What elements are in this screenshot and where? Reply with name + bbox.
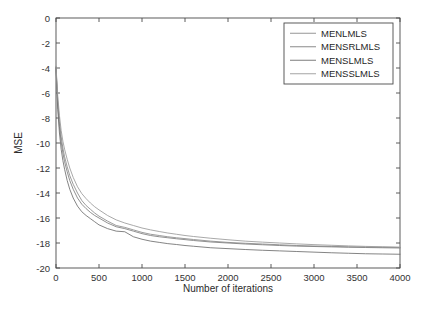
x-tick-label: 2500 xyxy=(260,272,281,283)
legend-label-menlmls: MENLMLS xyxy=(321,28,367,39)
chart-legend: MENLMLSMENSRLMLSMENSLMLSMENSSLMLS xyxy=(284,23,393,84)
y-tick-label: -14 xyxy=(36,188,50,199)
y-tick-label: 0 xyxy=(45,13,50,24)
x-tick-label: 1500 xyxy=(174,272,195,283)
x-tick-labels: 05001000150020002500300035004000 xyxy=(53,272,410,283)
x-tick-label: 3000 xyxy=(303,272,324,283)
x-tick-label: 3500 xyxy=(346,272,367,283)
plot-area: 05001000150020002500300035004000 0-2-4-6… xyxy=(0,0,421,316)
series-line-menslmls xyxy=(56,68,400,254)
x-tick-label: 2000 xyxy=(217,272,238,283)
data-series-group xyxy=(56,66,400,254)
x-tick-label: 500 xyxy=(91,272,107,283)
y-tick-label: -8 xyxy=(42,113,50,124)
legend-label-mensrlmls: MENSRLMLS xyxy=(321,41,380,52)
y-tick-label: -6 xyxy=(42,88,50,99)
x-axis-title: Number of iterations xyxy=(183,283,273,294)
y-axis-title: MSE xyxy=(13,132,24,154)
y-tick-label: -10 xyxy=(36,138,50,149)
series-line-menlmls xyxy=(56,67,400,248)
legend-label-menslmls: MENSLMLS xyxy=(321,55,373,66)
y-tick-label: -18 xyxy=(36,238,50,249)
y-tick-label: -12 xyxy=(36,163,50,174)
legend-label-mensslmls: MENSSLMLS xyxy=(321,68,380,79)
y-tick-label: -20 xyxy=(36,263,50,274)
series-line-mensslmls xyxy=(56,66,400,247)
y-tick-label: -4 xyxy=(42,63,50,74)
y-tick-label: -16 xyxy=(36,213,50,224)
x-tick-label: 1000 xyxy=(131,272,152,283)
y-tick-labels: 0-2-4-6-8-10-12-14-16-18-20 xyxy=(36,13,50,274)
x-tick-label: 0 xyxy=(53,272,58,283)
x-tick-label: 4000 xyxy=(389,272,410,283)
y-tick-label: -2 xyxy=(42,38,50,49)
mse-convergence-chart: 05001000150020002500300035004000 0-2-4-6… xyxy=(0,0,421,316)
